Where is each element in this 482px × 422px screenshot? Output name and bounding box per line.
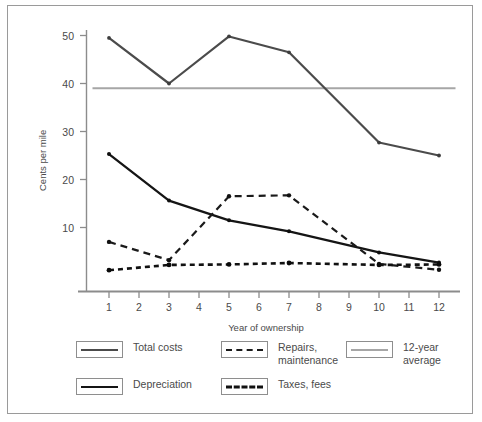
line-depreciation bbox=[109, 154, 439, 262]
x-axis-title: Year of ownership bbox=[228, 322, 304, 333]
data-point-marker bbox=[107, 36, 111, 40]
legend-label: Taxes, fees bbox=[278, 377, 331, 391]
x-tick-label: 11 bbox=[404, 301, 415, 313]
x-tick-label: 10 bbox=[373, 301, 385, 313]
y-tick-label: 20 bbox=[62, 174, 74, 186]
data-point-marker bbox=[167, 199, 171, 203]
y-tick-label: 40 bbox=[62, 78, 74, 90]
markers-total-costs bbox=[107, 35, 441, 158]
series-depreciation bbox=[107, 152, 441, 264]
markers-repairs-maintenance bbox=[107, 193, 441, 272]
x-tick-label: 5 bbox=[226, 301, 232, 313]
chart-legend: Total costs Repairs, maintenance 12-year… bbox=[8, 336, 472, 414]
data-point-marker bbox=[287, 229, 291, 233]
legend-row-1: Total costs Repairs, maintenance 12-year… bbox=[8, 340, 472, 374]
x-tick-label: 8 bbox=[316, 301, 322, 313]
y-axis-title: Cents per mile bbox=[37, 130, 48, 191]
legend-entry-taxes-fees[interactable]: Taxes, fees bbox=[221, 377, 331, 411]
solid-light-line-swatch-icon bbox=[346, 341, 393, 358]
x-tick-marks bbox=[109, 292, 439, 299]
data-point-marker bbox=[227, 35, 231, 39]
y-tick-marks bbox=[80, 36, 87, 228]
data-point-marker bbox=[437, 154, 441, 158]
data-point-marker bbox=[107, 152, 111, 156]
data-point-marker bbox=[287, 50, 291, 54]
y-tick-label: 30 bbox=[62, 126, 74, 138]
plot-area: 50 40 30 20 10 Cents per mile bbox=[8, 6, 472, 336]
data-point-marker bbox=[107, 240, 111, 244]
line-total-costs bbox=[109, 36, 439, 155]
data-point-marker bbox=[377, 141, 381, 145]
y-tick-label: 10 bbox=[62, 222, 74, 234]
x-tick-label: 2 bbox=[136, 301, 142, 313]
line-repairs-maintenance bbox=[109, 195, 439, 269]
data-point-marker bbox=[167, 258, 171, 262]
legend-entry-depreciation[interactable]: Depreciation bbox=[76, 377, 192, 411]
data-point-marker bbox=[107, 268, 112, 273]
x-tick-label: 6 bbox=[256, 301, 262, 313]
short-dashed-line-swatch-icon bbox=[221, 378, 268, 395]
chart-figure: 50 40 30 20 10 Cents per mile bbox=[7, 5, 473, 414]
data-point-marker bbox=[287, 193, 291, 197]
line-taxes-fees bbox=[109, 263, 439, 270]
data-point-marker bbox=[437, 262, 442, 267]
series-taxes-fees bbox=[107, 261, 442, 273]
legend-entry-12-year-average[interactable]: 12-year average bbox=[346, 340, 472, 374]
markers-depreciation bbox=[107, 152, 441, 264]
solid-dark-line-swatch-icon bbox=[76, 341, 123, 358]
legend-label: 12-year average bbox=[403, 340, 472, 366]
x-tick-label: 9 bbox=[346, 301, 352, 313]
data-point-marker bbox=[167, 82, 171, 86]
data-point-marker bbox=[377, 263, 382, 268]
x-tick-label: 12 bbox=[433, 301, 445, 313]
data-point-marker bbox=[227, 262, 232, 267]
x-tick-label: 1 bbox=[106, 301, 112, 313]
data-point-marker bbox=[227, 194, 231, 198]
y-tick-labels: 50 40 30 20 10 bbox=[62, 30, 74, 234]
legend-label: Repairs, maintenance bbox=[278, 340, 338, 366]
axis-group: 50 40 30 20 10 Cents per mile bbox=[37, 30, 460, 334]
x-tick-label: 7 bbox=[286, 301, 292, 313]
long-dashed-line-swatch-icon bbox=[221, 341, 268, 358]
series-repairs-maintenance bbox=[107, 193, 441, 272]
data-point-marker bbox=[287, 261, 292, 266]
series-total-costs bbox=[107, 35, 441, 158]
x-tick-labels: 1 2 3 4 5 6 7 8 9 10 11 12 bbox=[106, 301, 445, 313]
x-tick-label: 3 bbox=[166, 301, 172, 313]
y-tick-label: 50 bbox=[62, 30, 74, 42]
legend-label: Depreciation bbox=[133, 377, 192, 391]
data-point-marker bbox=[167, 263, 172, 268]
x-tick-label: 4 bbox=[196, 301, 202, 313]
solid-black-line-swatch-icon bbox=[76, 378, 123, 395]
data-point-marker bbox=[437, 268, 441, 272]
legend-entry-total-costs[interactable]: Total costs bbox=[76, 340, 183, 374]
legend-row-2: Depreciation Taxes, fees bbox=[8, 377, 472, 411]
legend-label: Total costs bbox=[133, 340, 183, 354]
data-point-marker bbox=[377, 250, 381, 254]
legend-entry-repairs-maintenance[interactable]: Repairs, maintenance bbox=[221, 340, 338, 374]
line-chart-svg: 50 40 30 20 10 Cents per mile bbox=[8, 6, 472, 336]
data-point-marker bbox=[227, 218, 231, 222]
